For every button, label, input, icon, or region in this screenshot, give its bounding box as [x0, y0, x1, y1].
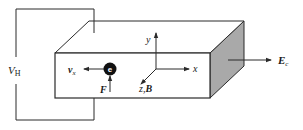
y-axis-label: y	[145, 34, 151, 45]
electron: e	[104, 63, 117, 76]
force-label: F	[99, 84, 107, 95]
hall-voltage-label: VH	[8, 64, 21, 78]
hall-effect-diagram: VH vx F e y x z,B Ec	[0, 0, 303, 130]
slab-front-face	[55, 53, 210, 98]
electric-field-label: Ec	[277, 54, 289, 68]
svg-text:e: e	[108, 65, 113, 74]
z-b-label: z,B	[138, 83, 152, 94]
x-axis-label: x	[192, 63, 198, 74]
